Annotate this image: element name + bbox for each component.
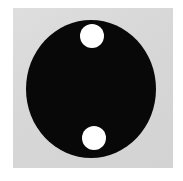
- image-plate: [13, 8, 173, 168]
- image-canvas: [0, 0, 183, 181]
- lower-hole-shape: [82, 126, 106, 150]
- upper-hole-shape: [80, 24, 104, 48]
- dark-disc-shape: [26, 20, 156, 158]
